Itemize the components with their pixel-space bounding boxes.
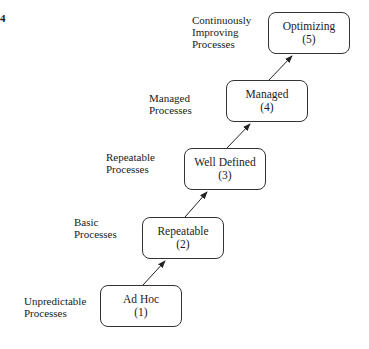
level-4-number: (4)	[260, 101, 273, 114]
arrow-2-to-3	[185, 192, 207, 217]
level-3-number: (3)	[218, 169, 231, 182]
level-2-description: Basic Processes	[74, 216, 117, 240]
arrow-3-to-4	[227, 124, 250, 148]
level-2-box: Repeatable (2)	[142, 217, 224, 259]
level-1-box: Ad Hoc (1)	[100, 285, 182, 327]
level-4-name: Managed	[246, 88, 289, 101]
level-5-description: Continuously Improving Processes	[192, 14, 251, 50]
level-5-box: Optimizing (5)	[268, 12, 350, 54]
level-5-number: (5)	[302, 33, 315, 46]
level-1-number: (1)	[134, 306, 147, 319]
level-3-description: Repeatable Processes	[106, 151, 155, 175]
level-3-name: Well Defined	[194, 156, 255, 169]
arrow-4-to-5	[269, 56, 292, 80]
level-2-number: (2)	[176, 238, 189, 251]
level-4-box: Managed (4)	[226, 80, 308, 122]
level-4-description: Managed Processes	[149, 92, 192, 116]
arrow-1-to-2	[143, 261, 165, 285]
level-3-box: Well Defined (3)	[184, 148, 266, 190]
level-1-name: Ad Hoc	[123, 293, 159, 306]
level-1-description: Unpredictable Processes	[24, 295, 86, 319]
level-5-name: Optimizing	[283, 20, 335, 33]
level-2-name: Repeatable	[157, 225, 208, 238]
